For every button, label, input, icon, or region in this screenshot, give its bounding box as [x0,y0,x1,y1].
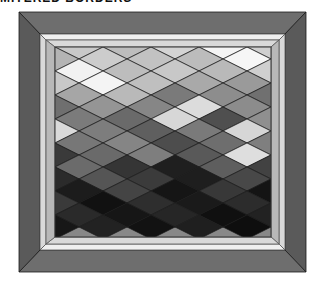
inner-border-inner-band-right [271,40,279,244]
inner-border-outer-band-left [40,34,46,250]
outer-border-top [19,12,306,34]
outer-border-bottom [19,250,306,272]
inner-border-outer-band-right [279,34,285,250]
inner-border-outer-band-top [40,34,285,40]
outer-border-right [285,12,306,272]
inner-border-inner-band-top [46,40,279,47]
mitered-quilt-illustration [0,0,319,285]
outer-border-left [19,12,40,272]
inner-border-outer-band-bottom [40,244,285,250]
inner-border-inner-band-bottom [46,237,279,244]
inner-border-inner-band-left [46,40,55,244]
